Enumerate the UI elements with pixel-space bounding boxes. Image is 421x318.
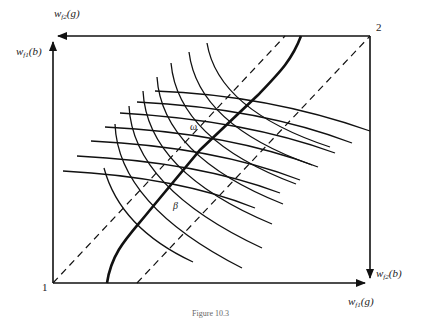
dashed-lines xyxy=(53,36,370,283)
origin-2-label: 2 xyxy=(376,22,382,33)
omega-label: ω xyxy=(190,122,197,132)
label-bottom-right-horizontal: wf1(g) xyxy=(348,296,374,309)
label-top-left-vertical: wf1(b) xyxy=(16,46,42,59)
figure-caption: Figure 10.3 xyxy=(0,309,421,318)
beta-label: β xyxy=(173,201,178,211)
label-top-left-horizontal: wf2(g) xyxy=(54,8,80,21)
label-bottom-right-vertical: wf2(b) xyxy=(376,268,402,281)
edgeworth-box-diagram xyxy=(0,0,421,318)
upper-dashed-line xyxy=(53,36,285,283)
box-frame xyxy=(53,36,370,283)
origin-1-label: 1 xyxy=(42,282,48,293)
